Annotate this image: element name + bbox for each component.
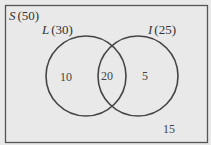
region-neither: 15 [163,122,175,136]
region-only-I: 5 [142,69,148,83]
universe-label: S(50) [9,8,39,23]
set-L-label: L(30) [41,22,73,37]
set-I-label: I(25) [147,22,176,37]
venn-diagram: S(50) L(30) I(25) 10 20 5 15 [0,0,211,145]
region-both: 20 [101,69,113,83]
set-L-circle [46,36,126,116]
region-only-L: 10 [60,70,72,84]
